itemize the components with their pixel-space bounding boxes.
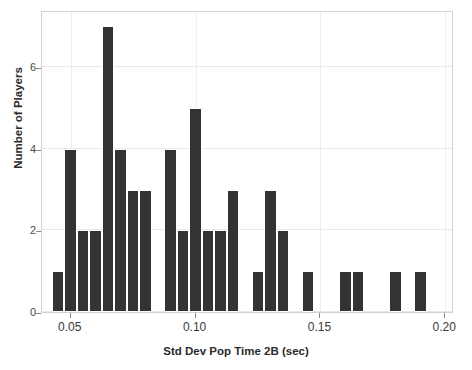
- x-tick-label: 0.20: [419, 321, 469, 334]
- histogram-bar: [52, 271, 64, 312]
- histogram-bar: [352, 271, 364, 312]
- histogram-bar: [189, 108, 201, 312]
- x-tick-mark: [319, 313, 320, 318]
- histogram-bar: [139, 190, 151, 312]
- y-tick-mark: [36, 150, 41, 151]
- histogram-bar: [102, 26, 114, 312]
- histogram-bar: [414, 271, 426, 312]
- histogram-bar: [302, 271, 314, 312]
- histogram-figure: 0246 0.050.100.150.20 Number of Players …: [0, 0, 472, 370]
- plot-area: [41, 11, 453, 313]
- y-axis-title: Number of Players: [12, 48, 24, 188]
- histogram-bar: [89, 230, 101, 312]
- x-tick-label: 0.05: [45, 321, 95, 334]
- gridline-vertical: [445, 12, 446, 312]
- histogram-bar: [227, 190, 239, 312]
- histogram-bar: [214, 230, 226, 312]
- x-tick-label: 0.15: [294, 321, 344, 334]
- y-tick-mark: [36, 231, 41, 232]
- histogram-bar: [177, 230, 189, 312]
- histogram-bar: [339, 271, 351, 312]
- histogram-bar: [77, 230, 89, 312]
- histogram-bar: [389, 271, 401, 312]
- x-axis-title: Std Dev Pop Time 2B (sec): [0, 345, 472, 357]
- x-tick-label: 0.10: [170, 321, 220, 334]
- histogram-bar: [64, 149, 76, 312]
- x-tick-mark: [70, 313, 71, 318]
- y-tick-mark: [36, 68, 41, 69]
- histogram-bar: [164, 149, 176, 312]
- histogram-bar: [127, 190, 139, 312]
- x-tick-mark: [195, 313, 196, 318]
- histogram-bar: [277, 230, 289, 312]
- y-tick-label: 0: [10, 307, 36, 318]
- histogram-bar: [202, 230, 214, 312]
- y-tick-mark: [36, 313, 41, 314]
- histogram-bar: [264, 190, 276, 312]
- x-tick-mark: [444, 313, 445, 318]
- y-tick-label: 2: [10, 225, 36, 236]
- histogram-bar: [114, 149, 126, 312]
- gridline-vertical: [320, 12, 321, 312]
- histogram-bar: [252, 271, 264, 312]
